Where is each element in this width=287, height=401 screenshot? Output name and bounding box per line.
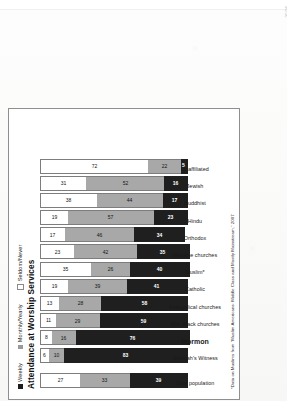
bar-value-label: 52 xyxy=(122,181,128,186)
category-label: Evangelical churches xyxy=(169,304,221,310)
bar-value-label: 8 xyxy=(45,335,48,340)
bar-segment-monthly-yearly: 16 xyxy=(52,330,76,345)
bar-catholic[interactable]: 193941 xyxy=(40,279,190,294)
scanned-page: · · · · · · · · · 20/26 WeeklyMonthly/Ye… xyxy=(0,0,287,401)
bar-segment-monthly-yearly: 10 xyxy=(49,348,64,363)
bar-segment-monthly-yearly: 39 xyxy=(68,279,127,294)
chart-footnote: *Data on Muslims from “Muslim Americans:… xyxy=(230,214,235,389)
category-label: Hindu xyxy=(187,218,201,224)
legend-item-seldom-never: Seldom/Never xyxy=(17,245,24,291)
category-label: Muslim* xyxy=(185,269,205,275)
bar-value-label: 16 xyxy=(61,335,67,340)
legend-item-weekly: Weekly xyxy=(17,363,23,389)
bar-value-label: 39 xyxy=(94,284,100,289)
bar-jehovah-s-witness[interactable]: 61083 xyxy=(40,348,190,363)
chart-figure: WeeklyMonthly/YearlySeldom/Never Attenda… xyxy=(8,108,240,400)
bar-value-label: 33 xyxy=(102,378,108,383)
bar-value-label: 27 xyxy=(57,378,63,383)
category-label-cell: Mainline churches xyxy=(193,245,249,260)
bar-total-population[interactable]: 273339 xyxy=(40,373,190,388)
bar-segment-monthly-yearly: 29 xyxy=(56,313,100,328)
category-label-cell: Buddhist xyxy=(193,193,249,208)
bar-value-label: 38 xyxy=(66,198,72,203)
category-label: Mormon xyxy=(181,338,209,345)
bar-value-label: 72 xyxy=(91,164,97,169)
bar-segment-seldom-never: 17 xyxy=(40,227,66,242)
bar-segment-seldom-never: 72 xyxy=(40,159,148,174)
category-separator xyxy=(40,365,190,371)
bar-segment-monthly-yearly: 57 xyxy=(68,210,154,225)
bar-value-label: 22 xyxy=(161,164,167,169)
bar-segment-monthly-yearly: 42 xyxy=(74,245,137,260)
category-label: Hist. black churches xyxy=(170,321,219,327)
legend-swatch-icon xyxy=(17,284,24,291)
category-label: Jewish xyxy=(186,183,203,189)
bar-segment-weekly: 23 xyxy=(154,210,189,225)
bar-segment-weekly: 83 xyxy=(64,348,189,363)
bar-unaffiliated[interactable]: 72225 xyxy=(40,159,190,174)
bar-segment-seldom-never: 38 xyxy=(40,193,97,208)
bar-value-label: 19 xyxy=(51,284,57,289)
bar-segment-seldom-never: 27 xyxy=(40,373,81,388)
legend-item-monthly-yearly: Monthly/Yearly xyxy=(17,304,23,349)
bar-segment-seldom-never: 8 xyxy=(40,330,52,345)
bar-segment-weekly: 76 xyxy=(76,330,190,345)
bar-value-label: 42 xyxy=(103,250,109,255)
bar-segment-monthly-yearly: 46 xyxy=(65,227,134,242)
category-label: Unaffiliated xyxy=(181,166,208,172)
bar-mainline-churches[interactable]: 234235 xyxy=(40,245,190,260)
bar-value-label: 28 xyxy=(77,301,83,306)
bar-jewish[interactable]: 315216 xyxy=(40,176,190,191)
bar-segment-seldom-never: 31 xyxy=(40,176,87,191)
bar-segment-seldom-never: 13 xyxy=(40,296,60,311)
bar-value-label: 39 xyxy=(155,378,161,383)
bar-value-label: 17 xyxy=(50,232,56,237)
category-label: Mainline churches xyxy=(172,252,216,258)
bar-segment-monthly-yearly: 44 xyxy=(97,193,163,208)
bar-value-label: 31 xyxy=(60,181,66,186)
bar-value-label: 35 xyxy=(160,250,166,255)
bar-value-label: 23 xyxy=(54,250,60,255)
category-label: Total population xyxy=(175,381,214,387)
bar-segment-monthly-yearly: 52 xyxy=(86,176,164,191)
bar-segment-seldom-never: 23 xyxy=(40,245,75,260)
bar-orthodox[interactable]: 174634 xyxy=(40,227,190,242)
bar-hindu[interactable]: 195723 xyxy=(40,210,190,225)
legend-label: Weekly xyxy=(17,363,23,382)
rotated-figure-wrapper: WeeklyMonthly/YearlySeldom/Never Attenda… xyxy=(8,108,240,400)
bar-segment-weekly: 16 xyxy=(164,176,188,191)
bar-value-label: 17 xyxy=(172,198,178,203)
bar-buddhist[interactable]: 384417 xyxy=(40,193,190,208)
legend-label: Seldom/Never xyxy=(17,245,23,282)
category-label: Jehovah's Witness xyxy=(172,355,218,361)
chart-legend: WeeklyMonthly/YearlySeldom/Never xyxy=(17,117,24,389)
bar-segment-seldom-never: 11 xyxy=(40,313,57,328)
bar-evangelical-churches[interactable]: 132858 xyxy=(40,296,190,311)
bar-segment-monthly-yearly: 28 xyxy=(59,296,101,311)
bar-value-label: 10 xyxy=(53,353,59,358)
bar-mormon[interactable]: 81676 xyxy=(40,330,190,345)
category-axis: Total populationJehovah's WitnessMormonH… xyxy=(193,117,249,389)
category-label-cell: Muslim* xyxy=(193,262,249,277)
category-label-cell: Jewish xyxy=(193,176,249,191)
bar-value-label: 40 xyxy=(157,267,163,272)
bar-value-label: 35 xyxy=(63,267,69,272)
category-label-cell: Hindu xyxy=(193,210,249,225)
bar-value-label: 26 xyxy=(108,267,114,272)
bar-segment-seldom-never: 19 xyxy=(40,210,69,225)
bar-value-label: 23 xyxy=(167,215,173,220)
bar-hist-black-churches[interactable]: 112959 xyxy=(40,313,190,328)
category-label: Buddhist xyxy=(184,200,205,206)
category-label-cell: Jehovah's Witness xyxy=(193,348,249,363)
bar-value-label: 57 xyxy=(108,215,114,220)
bar-muslim[interactable]: 352640 xyxy=(40,262,190,277)
chart-plot-area: 2733396108381676112959132858193941352640… xyxy=(40,117,190,389)
category-label-cell: Hist. black churches xyxy=(193,313,249,328)
bar-value-label: 44 xyxy=(127,198,133,203)
bar-value-label: 83 xyxy=(122,353,128,358)
legend-swatch-icon xyxy=(18,345,23,350)
bar-value-label: 11 xyxy=(46,318,51,323)
bar-segment-weekly: 41 xyxy=(127,279,189,294)
chart-title: Attendance at Worship Services xyxy=(27,117,36,389)
bar-value-label: 59 xyxy=(140,318,146,323)
